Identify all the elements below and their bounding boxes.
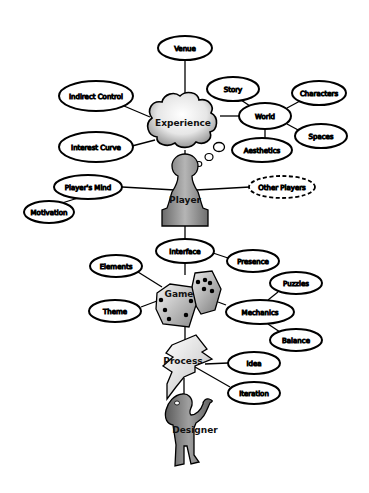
node-balance[interactable]: Balance <box>270 329 322 351</box>
edge-elements-game <box>138 272 162 287</box>
edge-players-mind-player <box>122 187 175 190</box>
edge-presence-interface <box>213 253 228 258</box>
node-interest-curve[interactable]: Interest Curve <box>59 132 133 162</box>
svg-text:Indirect Control: Indirect Control <box>69 93 123 101</box>
svg-text:Story: Story <box>224 86 243 94</box>
experience-label: Experience <box>155 118 211 128</box>
thought-bubble-large <box>214 143 225 152</box>
node-mechanics[interactable]: Mechanics <box>226 300 294 324</box>
thought-bubble-medium <box>205 154 213 161</box>
edge-other-players-player <box>196 187 250 190</box>
node-elements[interactable]: Elements <box>90 255 142 277</box>
process-label: Process <box>163 356 202 366</box>
game-label: Game <box>165 289 194 299</box>
player-label: Player <box>169 195 201 205</box>
svg-text:Other Players: Other Players <box>258 184 306 192</box>
edge-theme-game <box>141 301 157 307</box>
svg-text:Venue: Venue <box>174 45 196 53</box>
designer-hub[interactable]: Designer <box>165 394 218 466</box>
node-iteration[interactable]: Iteration <box>228 382 280 404</box>
node-indirect-control[interactable]: Indirect Control <box>59 81 133 111</box>
edge-iteration-process <box>195 367 230 387</box>
svg-text:Interface: Interface <box>169 248 200 256</box>
node-world[interactable]: World <box>239 103 291 129</box>
node-story[interactable]: Story <box>207 77 259 101</box>
node-motivation[interactable]: Motivation <box>24 201 74 223</box>
edge-balance-mechanics <box>268 324 280 332</box>
edge-interest-curve-experience <box>132 140 155 146</box>
edge-puzzles-mechanics <box>268 292 278 300</box>
process-hub[interactable]: Process <box>163 335 212 399</box>
svg-text:Elements: Elements <box>100 263 133 271</box>
designer-eye <box>175 401 180 405</box>
node-interface[interactable]: Interface <box>156 239 214 263</box>
svg-text:Spaces: Spaces <box>309 133 334 141</box>
dice-icon <box>156 271 221 327</box>
edge-idea-process <box>205 363 228 364</box>
node-puzzles[interactable]: Puzzles <box>270 272 322 294</box>
node-players-mind[interactable]: Player's Mind <box>54 175 122 199</box>
edge-indirect-control-experience <box>124 106 150 117</box>
svg-text:Balance: Balance <box>282 337 310 345</box>
node-aesthetics[interactable]: Aesthetics <box>232 138 292 162</box>
svg-text:Motivation: Motivation <box>31 209 68 217</box>
node-other-players[interactable]: Other Players <box>249 176 315 198</box>
svg-text:Puzzles: Puzzles <box>283 280 309 288</box>
svg-text:Interest Curve: Interest Curve <box>71 144 121 152</box>
edge-characters-world <box>287 101 300 108</box>
svg-text:Player's Mind: Player's Mind <box>65 184 111 192</box>
concept-map-diagram: Experience Player Game <box>0 0 369 493</box>
svg-text:Mechanics: Mechanics <box>242 309 279 317</box>
svg-text:Presence: Presence <box>237 258 269 266</box>
svg-text:Characters: Characters <box>300 90 339 98</box>
node-theme[interactable]: Theme <box>89 300 141 322</box>
node-spaces[interactable]: Spaces <box>295 124 347 148</box>
svg-text:Iteration: Iteration <box>239 390 269 398</box>
svg-text:Theme: Theme <box>102 308 127 316</box>
node-presence[interactable]: Presence <box>227 250 279 272</box>
svg-text:World: World <box>255 113 275 121</box>
lightning-bolt-icon <box>163 335 212 399</box>
svg-text:Aesthetics: Aesthetics <box>244 147 281 155</box>
svg-text:Idea: Idea <box>246 360 261 368</box>
edge-mechanics-game <box>218 302 226 305</box>
node-venue[interactable]: Venue <box>158 36 212 60</box>
node-characters[interactable]: Characters <box>292 81 346 105</box>
designer-label: Designer <box>172 425 218 435</box>
node-idea[interactable]: Idea <box>228 352 280 374</box>
game-hub[interactable]: Game <box>156 271 221 327</box>
